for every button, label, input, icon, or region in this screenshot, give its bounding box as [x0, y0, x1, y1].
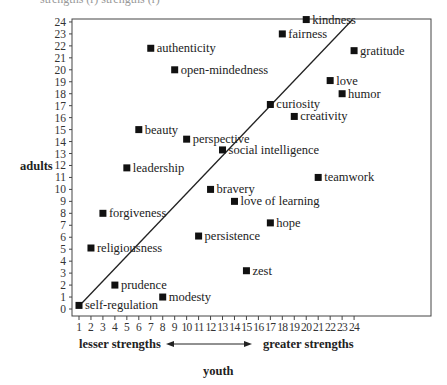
point-label: beauty [145, 123, 179, 137]
y-axis: 0123456789101112131415161718192021222324 [55, 16, 73, 315]
square-marker-icon [183, 136, 190, 143]
square-marker-icon [207, 186, 214, 193]
x-tick-label: 4 [112, 321, 118, 333]
square-marker-icon [135, 126, 142, 133]
x-tick-label: 20 [301, 321, 312, 333]
data-point: gratitude [351, 44, 405, 58]
point-label: leadership [133, 161, 184, 175]
data-point: teamwork [315, 170, 375, 184]
y-tick-label: 21 [55, 52, 67, 64]
double-arrow-icon [166, 341, 252, 347]
x-tick-label: 19 [289, 321, 300, 333]
point-label: love [336, 74, 358, 88]
y-tick-label: 24 [55, 16, 67, 28]
y-axis-title: adults [20, 159, 53, 173]
y-tick-label: 14 [55, 136, 67, 148]
x-tick-label: 17 [265, 321, 276, 333]
square-marker-icon [159, 294, 166, 301]
y-tick-label: 22 [55, 40, 67, 52]
point-label: zest [252, 264, 272, 278]
x-tick-label: 21 [313, 321, 324, 333]
square-marker-icon [171, 66, 178, 73]
point-label: fairness [288, 27, 327, 41]
y-tick-label: 17 [55, 100, 67, 112]
square-marker-icon [327, 77, 334, 84]
data-point: creativity [291, 109, 348, 123]
x-tick-label: 16 [253, 321, 264, 333]
point-label: forgiveness [109, 206, 167, 220]
data-point: social intelligence [219, 143, 320, 157]
y-tick-label: 12 [55, 159, 67, 171]
data-point: hope [267, 216, 301, 230]
data-points: kindnessfairnessgratitudeauthenticityope… [76, 13, 405, 313]
x-tick-label: 7 [148, 321, 154, 333]
y-tick-label: 19 [55, 76, 67, 88]
square-marker-icon [279, 30, 286, 37]
point-label: authenticity [157, 41, 217, 55]
data-point: humor [339, 87, 382, 101]
x-axis-title: youth [203, 364, 234, 378]
x-tick-label: 24 [349, 321, 360, 333]
point-label: religiousness [97, 241, 162, 255]
data-point: zest [243, 264, 272, 278]
x-tick-label: 14 [229, 321, 240, 333]
data-point: fairness [279, 27, 328, 41]
data-point: open-mindedness [171, 63, 268, 77]
data-point: self-regulation [76, 298, 159, 312]
square-marker-icon [111, 282, 118, 289]
square-marker-icon [195, 233, 202, 240]
y-tick-label: 23 [55, 28, 67, 40]
x-tick-label: 23 [337, 321, 348, 333]
data-point: kindness [303, 13, 356, 27]
y-tick-label: 7 [60, 219, 66, 231]
square-marker-icon [291, 113, 298, 120]
point-label: kindness [312, 13, 356, 27]
square-marker-icon [267, 101, 274, 108]
y-tick-label: 20 [55, 64, 67, 76]
y-tick-label: 1 [60, 291, 66, 303]
data-point: beauty [135, 123, 179, 137]
y-tick-label: 15 [55, 124, 67, 136]
y-tick-label: 18 [55, 88, 67, 100]
x-tick-label: 8 [160, 321, 166, 333]
data-point: religiousness [87, 241, 162, 255]
y-tick-label: 5 [60, 243, 66, 255]
x-tick-label: 9 [172, 321, 178, 333]
y-tick-label: 13 [55, 148, 67, 160]
x-tick-label: 22 [325, 321, 336, 333]
y-tick-label: 0 [60, 303, 66, 315]
y-tick-label: 9 [60, 195, 66, 207]
square-marker-icon [351, 47, 358, 54]
x-axis: 123456789101112131415161718192021222324 [76, 316, 360, 333]
square-marker-icon [303, 16, 310, 23]
point-label: gratitude [360, 44, 405, 58]
x-tick-label: 2 [88, 321, 94, 333]
point-label: modesty [169, 290, 212, 304]
x-tick-label: 13 [217, 321, 228, 333]
data-point: modesty [159, 290, 212, 304]
point-label: love of learning [240, 194, 320, 208]
x-scale-right-label: greater strengths [263, 337, 354, 351]
x-scale-left-label: lesser strengths [79, 337, 161, 351]
data-point: love [327, 74, 358, 88]
data-point: forgiveness [99, 206, 166, 220]
data-point: authenticity [147, 41, 216, 55]
data-point: prudence [111, 278, 167, 292]
square-marker-icon [99, 210, 106, 217]
x-tick-label: 6 [136, 321, 142, 333]
square-marker-icon [219, 146, 226, 153]
square-marker-icon [267, 219, 274, 226]
y-tick-label: 3 [60, 267, 66, 279]
x-tick-label: 1 [76, 321, 82, 333]
square-marker-icon [147, 45, 154, 52]
data-point: persistence [195, 229, 260, 243]
point-label: persistence [205, 229, 261, 243]
x-tick-label: 10 [181, 321, 192, 333]
y-tick-label: 16 [55, 112, 67, 124]
square-marker-icon [123, 164, 130, 171]
data-point: love of learning [231, 194, 320, 208]
point-label: self-regulation [85, 298, 159, 312]
x-tick-label: 18 [277, 321, 288, 333]
square-marker-icon [76, 302, 83, 309]
y-tick-label: 8 [60, 207, 66, 219]
